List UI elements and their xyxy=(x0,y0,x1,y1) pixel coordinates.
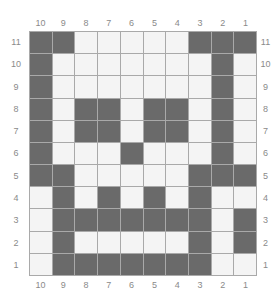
grid-cell-empty[interactable] xyxy=(98,54,120,75)
grid-cell-empty[interactable] xyxy=(189,121,211,142)
grid-cell-empty[interactable] xyxy=(189,99,211,120)
grid-cell-filled[interactable] xyxy=(75,99,97,120)
grid-cell-filled[interactable] xyxy=(30,32,52,53)
grid-cell-filled[interactable] xyxy=(212,165,234,186)
grid-cell-empty[interactable] xyxy=(121,99,143,120)
grid-cell-empty[interactable] xyxy=(53,76,75,97)
grid-cell-filled[interactable] xyxy=(98,187,120,208)
grid-cell-empty[interactable] xyxy=(166,76,188,97)
grid-cell-empty[interactable] xyxy=(166,32,188,53)
grid-cell-filled[interactable] xyxy=(212,143,234,164)
grid-cell-empty[interactable] xyxy=(144,54,166,75)
grid-cell-empty[interactable] xyxy=(234,76,256,97)
grid-cell-empty[interactable] xyxy=(98,76,120,97)
grid-cell-empty[interactable] xyxy=(53,121,75,142)
grid-cell-empty[interactable] xyxy=(189,143,211,164)
grid-cell-empty[interactable] xyxy=(144,232,166,253)
grid-cell-empty[interactable] xyxy=(189,76,211,97)
grid-cell-empty[interactable] xyxy=(234,143,256,164)
grid-cell-empty[interactable] xyxy=(234,187,256,208)
grid-cell-filled[interactable] xyxy=(166,209,188,230)
grid-cell-empty[interactable] xyxy=(166,54,188,75)
grid-cell-empty[interactable] xyxy=(212,209,234,230)
grid-cell-empty[interactable] xyxy=(53,54,75,75)
grid-cell-empty[interactable] xyxy=(121,121,143,142)
grid-cell-filled[interactable] xyxy=(189,165,211,186)
grid-cell-empty[interactable] xyxy=(121,232,143,253)
grid-cell-filled[interactable] xyxy=(53,32,75,53)
grid-cell-empty[interactable] xyxy=(98,32,120,53)
grid-cell-filled[interactable] xyxy=(53,232,75,253)
grid-cell-empty[interactable] xyxy=(234,254,256,275)
grid-cell-filled[interactable] xyxy=(121,254,143,275)
grid-cell-filled[interactable] xyxy=(144,187,166,208)
grid-cell-filled[interactable] xyxy=(53,165,75,186)
grid-cell-empty[interactable] xyxy=(121,54,143,75)
grid-cell-empty[interactable] xyxy=(30,187,52,208)
grid-cell-empty[interactable] xyxy=(144,32,166,53)
grid-cell-empty[interactable] xyxy=(212,254,234,275)
grid-cell-filled[interactable] xyxy=(98,254,120,275)
grid-cell-filled[interactable] xyxy=(30,121,52,142)
grid-cell-empty[interactable] xyxy=(234,54,256,75)
grid-cell-empty[interactable] xyxy=(166,187,188,208)
grid-cell-empty[interactable] xyxy=(121,32,143,53)
grid-cell-empty[interactable] xyxy=(30,209,52,230)
grid-cell-empty[interactable] xyxy=(234,99,256,120)
grid-cell-filled[interactable] xyxy=(98,121,120,142)
grid-cell-empty[interactable] xyxy=(166,232,188,253)
grid-cell-filled[interactable] xyxy=(30,143,52,164)
grid-cell-filled[interactable] xyxy=(98,209,120,230)
grid-cell-filled[interactable] xyxy=(53,209,75,230)
grid-cell-filled[interactable] xyxy=(166,121,188,142)
grid-cell-filled[interactable] xyxy=(189,187,211,208)
grid-cell-empty[interactable] xyxy=(53,99,75,120)
grid-cell-filled[interactable] xyxy=(144,99,166,120)
grid-cell-empty[interactable] xyxy=(75,54,97,75)
grid-cell-filled[interactable] xyxy=(98,99,120,120)
grid-cell-empty[interactable] xyxy=(75,232,97,253)
grid-cell-filled[interactable] xyxy=(234,32,256,53)
grid-cell-filled[interactable] xyxy=(75,209,97,230)
grid-cell-filled[interactable] xyxy=(212,121,234,142)
grid-cell-filled[interactable] xyxy=(166,99,188,120)
grid-cell-filled[interactable] xyxy=(189,254,211,275)
grid-cell-empty[interactable] xyxy=(75,76,97,97)
grid-cell-filled[interactable] xyxy=(144,254,166,275)
grid-cell-filled[interactable] xyxy=(30,99,52,120)
grid-cell-filled[interactable] xyxy=(189,32,211,53)
grid-cell-filled[interactable] xyxy=(212,99,234,120)
grid-cell-filled[interactable] xyxy=(30,165,52,186)
grid-cell-empty[interactable] xyxy=(166,165,188,186)
grid-cell-filled[interactable] xyxy=(189,232,211,253)
grid-cell-filled[interactable] xyxy=(144,209,166,230)
grid-cell-empty[interactable] xyxy=(75,143,97,164)
grid-cell-empty[interactable] xyxy=(121,76,143,97)
grid-cell-filled[interactable] xyxy=(53,187,75,208)
grid-cell-empty[interactable] xyxy=(121,165,143,186)
grid-cell-empty[interactable] xyxy=(144,143,166,164)
grid-cell-filled[interactable] xyxy=(121,209,143,230)
grid-cell-filled[interactable] xyxy=(212,32,234,53)
grid-cell-empty[interactable] xyxy=(234,121,256,142)
grid-cell-empty[interactable] xyxy=(98,165,120,186)
grid-cell-filled[interactable] xyxy=(144,121,166,142)
grid-cell-empty[interactable] xyxy=(98,143,120,164)
grid-cell-filled[interactable] xyxy=(75,121,97,142)
grid-cell-filled[interactable] xyxy=(30,54,52,75)
grid-cell-filled[interactable] xyxy=(189,209,211,230)
grid-cell-empty[interactable] xyxy=(144,76,166,97)
grid-cell-filled[interactable] xyxy=(75,254,97,275)
grid-cell-empty[interactable] xyxy=(166,143,188,164)
grid-cell-empty[interactable] xyxy=(212,187,234,208)
grid-cell-filled[interactable] xyxy=(121,143,143,164)
grid-cell-empty[interactable] xyxy=(30,232,52,253)
grid-cell-filled[interactable] xyxy=(234,165,256,186)
grid-cell-empty[interactable] xyxy=(98,232,120,253)
grid-cell-empty[interactable] xyxy=(75,187,97,208)
grid-cell-filled[interactable] xyxy=(53,254,75,275)
grid-cell-filled[interactable] xyxy=(30,76,52,97)
grid-cell-filled[interactable] xyxy=(234,209,256,230)
grid-cell-empty[interactable] xyxy=(53,143,75,164)
grid-cell-empty[interactable] xyxy=(121,187,143,208)
